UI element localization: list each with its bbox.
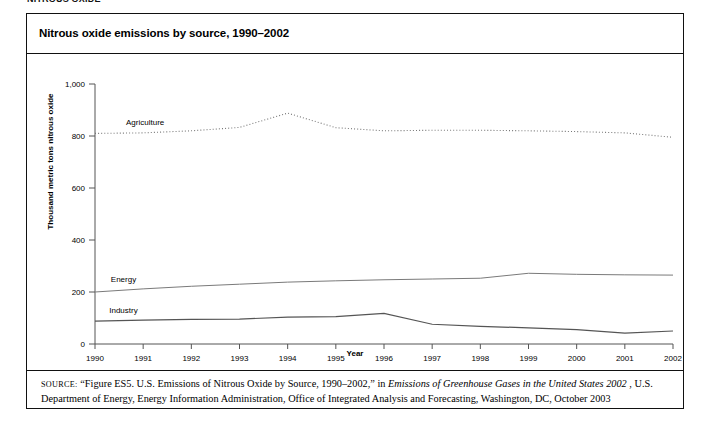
svg-text:800: 800 <box>72 132 86 141</box>
source-divider-bottom <box>27 408 683 409</box>
source-text-part-1: “Figure ES5. U.S. Emissions of Nitrous O… <box>80 378 388 389</box>
running-head: NITROUS OXIDE <box>27 0 101 2</box>
y-axis-title: Thousand metric tons nitrous oxide <box>46 77 55 247</box>
page-root: NITROUS OXIDE Nitrous oxide emissions by… <box>0 0 708 423</box>
series-label-energy: Energy <box>111 275 136 284</box>
svg-text:1,000: 1,000 <box>65 80 86 89</box>
figure-container: Nitrous oxide emissions by source, 1990–… <box>26 13 684 409</box>
plot-area: 02004006008001,0001990199119921993199419… <box>27 53 683 369</box>
series-label-industry: Industry <box>109 306 137 315</box>
source-publication-title: Emissions of Greenhouse Gases in the Uni… <box>388 378 627 389</box>
source-divider-top <box>27 370 683 371</box>
source-label: SOURCE: <box>41 380 78 389</box>
svg-text:0: 0 <box>81 340 86 349</box>
svg-text:400: 400 <box>72 236 86 245</box>
svg-text:200: 200 <box>72 288 86 297</box>
line-chart: 02004006008001,0001990199119921993199419… <box>27 53 683 369</box>
svg-text:600: 600 <box>72 184 86 193</box>
figure-title: Nitrous oxide emissions by source, 1990–… <box>39 27 289 39</box>
x-axis-title: Year <box>27 349 683 358</box>
series-label-agriculture: Agriculture <box>126 118 165 127</box>
source-note: SOURCE: “Figure ES5. U.S. Emissions of N… <box>41 377 671 406</box>
